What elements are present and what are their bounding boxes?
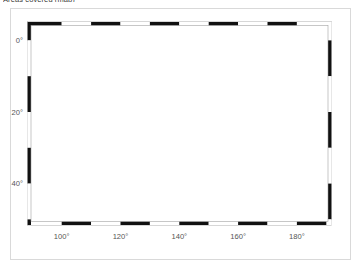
map-canvas[interactable]: 100° 120° 140° 160° 180° 0° 20° 40° — [0, 0, 361, 271]
x-tick-label: 120° — [113, 232, 129, 241]
y-tick-label: 40° — [12, 179, 23, 188]
y-axis-tick-labels: 0° 20° 40° — [12, 36, 23, 188]
x-tick-label: 180° — [289, 232, 305, 241]
map-figure-root: Areas covered (map) — [0, 0, 361, 271]
x-tick-label: 100° — [54, 232, 70, 241]
coastline-fiji-2 — [338, 86, 344, 91]
x-axis-tick-labels: 100° 120° 140° 160° 180° — [54, 232, 305, 241]
map-figure: 100° 120° 140° 160° 180° 0° 20° 40° — [0, 0, 361, 271]
y-tick-label: 20° — [12, 108, 23, 117]
x-tick-label: 160° — [230, 232, 246, 241]
y-tick-label: 0° — [16, 36, 23, 45]
frame-right-segments — [328, 22, 331, 225]
x-tick-label: 140° — [171, 232, 187, 241]
frame-top-segments — [31, 22, 326, 25]
frame-left-segments — [28, 22, 31, 225]
frame-bottom-segments — [31, 222, 326, 225]
map-neatline-frame — [28, 22, 332, 226]
